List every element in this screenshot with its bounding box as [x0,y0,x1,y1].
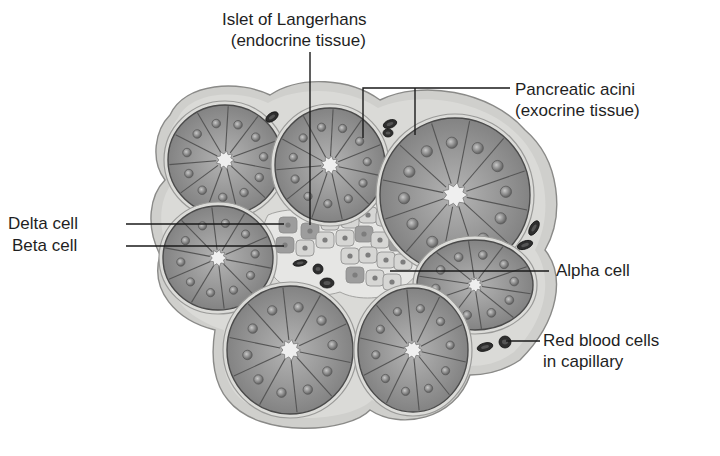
acinus-bottom-left [223,282,357,418]
nucleus [478,251,487,260]
nucleus [303,385,312,394]
label-red-blood-cells: Red blood cells in capillary [543,330,659,372]
acinus-bottom-middle [354,284,472,416]
nucleus [355,137,363,145]
nucleus [446,341,454,349]
nucleus [338,124,346,132]
nucleus [441,367,449,375]
nucleus [299,134,307,142]
nucleus [500,260,509,269]
label-acini-line1: Pancreatic acini [515,79,640,100]
islet-cell-nucleus [377,237,382,242]
label-rbc-line2: in capillary [543,351,659,372]
nucleus [198,186,207,195]
nucleus [407,218,418,229]
nucleus [487,308,496,317]
nucleus [277,388,286,397]
acinus-top-middle [271,104,389,226]
nucleus [505,296,514,305]
nucleus [454,253,463,262]
nucleus [381,374,389,382]
nucleus [359,179,367,187]
nucleus [436,317,444,325]
nucleus [255,173,264,182]
nucleus [212,119,221,128]
label-acini-line2: (exocrine tissue) [515,100,640,121]
nucleus [404,166,415,177]
nucleus [246,271,254,279]
label-rbc-line1: Red blood cells [543,330,659,351]
nucleus [416,305,424,313]
nucleus [181,236,189,244]
nucleus [259,153,268,162]
nucleus [376,325,384,333]
red-blood-cell [383,129,393,137]
islet-cell-nucleus [322,237,327,242]
nucleus [304,192,312,200]
nucleus [436,266,445,275]
nucleus [177,258,185,266]
nucleus [495,213,506,224]
nucleus [510,277,519,286]
islet-cell-nucleus [365,252,370,257]
nucleus [234,121,243,130]
islet-cell-nucleus [285,222,290,227]
nucleus [421,146,432,157]
islet-cell-nucleus [352,272,357,277]
nucleus [254,375,263,384]
nucleus [427,236,438,247]
nucleus [289,153,297,161]
red-blood-cell [313,264,323,274]
label-alpha-text: Alpha cell [556,260,630,281]
red-blood-cell [499,336,511,348]
nucleus [492,160,503,171]
pancreas-diagram [0,0,720,456]
nucleus [344,195,352,203]
islet-cell-nucleus [383,257,388,262]
nucleus [372,351,380,359]
islet-cell-nucleus [342,235,347,240]
nucleus [251,250,259,258]
label-islet-line1: Islet of Langerhans [222,9,367,30]
nucleus [198,222,206,230]
nucleus [424,384,432,392]
islet-cell-nucleus [389,279,394,284]
islet-cell-nucleus [347,253,352,258]
nucleus [206,289,214,297]
nucleus [401,387,409,395]
nucleus [328,340,337,349]
red-blood-cell [320,278,334,288]
islet-cell-nucleus [372,275,377,280]
label-islet-of-langerhans: Islet of Langerhans (endocrine tissue) [222,9,367,51]
nucleus [240,188,249,197]
nucleus [291,175,299,183]
islet-cell-nucleus [282,242,287,247]
nucleus [317,316,326,325]
nucleus [472,142,483,153]
label-alpha-cell: Alpha cell [556,260,630,281]
nucleus [317,123,325,131]
nucleus [324,200,332,208]
nucleus [219,193,228,202]
nucleus [185,169,194,178]
nucleus [243,350,252,359]
label-beta-cell: Beta cell [12,235,77,256]
islet-cell-nucleus [302,245,307,250]
nucleus [393,308,401,316]
nucleus [500,186,511,197]
nucleus [251,133,260,142]
label-delta-text: Delta cell [8,213,78,234]
nucleus [363,158,371,166]
nucleus [294,303,303,312]
label-beta-text: Beta cell [12,235,77,256]
islet-cell-nucleus [400,259,405,264]
islet-cell-nucleus [307,228,312,233]
nucleus [183,148,192,157]
islet-cell-nucleus [361,231,366,236]
nucleus [248,324,257,333]
nucleus [193,130,202,139]
label-delta-cell: Delta cell [8,213,78,234]
nucleus [186,278,194,286]
nucleus [446,137,457,148]
label-islet-line2: (endocrine tissue) [222,30,367,51]
